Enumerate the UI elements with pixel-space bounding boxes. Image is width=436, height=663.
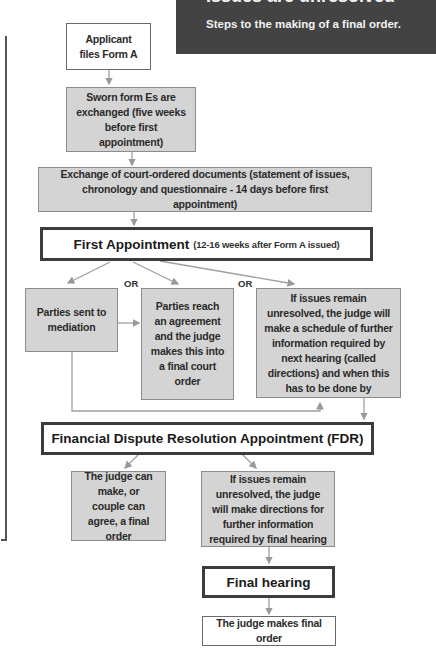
option-mediation: Parties sent to mediation bbox=[25, 288, 118, 352]
step-final-order: The judge makes final order bbox=[202, 616, 336, 646]
step-final-hearing: Final hearing bbox=[202, 566, 335, 598]
fdr-option-final-order-text: The judge can make, or couple can agree,… bbox=[72, 469, 165, 544]
fdr-title: Financial Dispute Resolution Appointment… bbox=[51, 431, 363, 446]
step-sworn-forms: Sworn form Es are exchanged (five weeks … bbox=[66, 87, 196, 152]
step-applicant-files: Applicant files Form A bbox=[66, 23, 151, 70]
final-order-text: The judge makes final order bbox=[203, 616, 335, 646]
step-applicant-text: Applicant files Form A bbox=[67, 32, 150, 62]
step-exchange-documents: Exchange of court-ordered documents (sta… bbox=[38, 167, 372, 212]
step-fdr-appointment: Financial Dispute Resolution Appointment… bbox=[41, 422, 374, 455]
or-label-2: OR bbox=[238, 278, 252, 289]
step-exchange-text: Exchange of court-ordered documents (sta… bbox=[39, 167, 371, 212]
option-agreement-text: Parties reach an agreement and the judge… bbox=[142, 299, 233, 389]
or-label-1: OR bbox=[124, 278, 138, 289]
final-hearing-title: Final hearing bbox=[226, 575, 310, 590]
option-directions-text: If issues remain unresolved, the judge w… bbox=[257, 291, 400, 396]
step-first-appointment: First Appointment (12-16 weeks after For… bbox=[40, 227, 373, 261]
option-agreement: Parties reach an agreement and the judge… bbox=[141, 288, 234, 400]
step-sworn-forms-text: Sworn form Es are exchanged (five weeks … bbox=[67, 90, 195, 150]
option-directions: If issues remain unresolved, the judge w… bbox=[256, 288, 401, 398]
first-appointment-title: First Appointment bbox=[73, 237, 189, 252]
option-mediation-text: Parties sent to mediation bbox=[26, 305, 117, 335]
fdr-option-final-order: The judge can make, or couple can agree,… bbox=[71, 471, 166, 541]
fdr-option-directions: If issues remain unresolved, the judge w… bbox=[201, 471, 335, 547]
fdr-option-directions-text: If issues remain unresolved, the judge w… bbox=[202, 472, 334, 547]
first-appointment-note: (12-16 weeks after Form A issued) bbox=[193, 237, 339, 252]
